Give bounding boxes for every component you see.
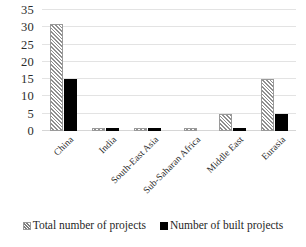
y-tick-label: 10 [21, 90, 34, 103]
y-tick-label: 15 [21, 73, 34, 86]
y-tick-label: 0 [28, 125, 34, 138]
x-axis-category-label: Middle East [205, 135, 245, 175]
bar-built-projects[interactable] [275, 114, 288, 131]
bar-group [84, 10, 126, 131]
legend-item[interactable]: Number of built projects [160, 220, 283, 232]
bar-total-projects[interactable] [219, 114, 232, 131]
bar-total-projects[interactable] [261, 79, 274, 131]
bar-group [211, 10, 253, 131]
bar-built-projects[interactable] [64, 79, 77, 131]
y-tick-label: 25 [21, 38, 34, 51]
legend-label: Number of built projects [170, 220, 283, 232]
hatched-square-icon [23, 222, 31, 230]
x-axis-category-label: Eurasia [260, 135, 287, 162]
bar-group [254, 10, 296, 131]
plot-area [42, 10, 296, 131]
y-tick-label: 20 [21, 56, 34, 69]
bar-group [42, 10, 84, 131]
x-axis-category-label: China [53, 135, 76, 158]
y-axis: 05101520253035 [0, 10, 40, 131]
legend-label: Total number of projects [33, 220, 146, 232]
bar-groups [42, 10, 296, 131]
y-tick-label: 5 [28, 107, 34, 120]
x-axis-labels: ChinaIndiaSouth-East AsiaSub-Saharan Afr… [42, 131, 296, 211]
bar-total-projects[interactable] [50, 24, 63, 131]
y-tick-label: 35 [21, 4, 34, 17]
black-square-icon [160, 222, 168, 230]
bar-group [127, 10, 169, 131]
bar-group [169, 10, 211, 131]
chart-legend: Total number of projectsNumber of built … [0, 220, 306, 232]
y-tick-label: 30 [21, 21, 34, 34]
legend-item[interactable]: Total number of projects [23, 220, 146, 232]
x-axis-category-label: India [97, 135, 118, 156]
bar-chart: 05101520253035 ChinaIndiaSouth-East Asia… [0, 0, 306, 247]
